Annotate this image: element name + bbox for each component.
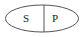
ellipse-diagram: S P xyxy=(0,0,83,37)
region-label-left: S xyxy=(23,12,29,24)
ellipse-outline xyxy=(6,5,79,32)
region-label-right: P xyxy=(52,12,58,24)
